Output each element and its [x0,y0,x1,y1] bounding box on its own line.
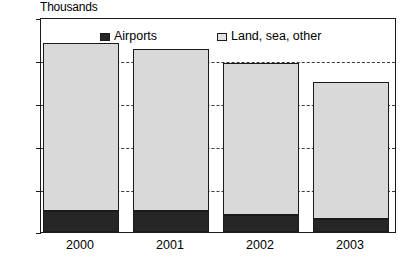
y-tick-200 [36,62,41,63]
x-axis-label-2000: 2000 [42,238,118,252]
legend-label-land-sea-other: Land, sea, other [231,30,321,43]
legend-label-airports: Airports [114,30,157,43]
bar-2001[interactable] [133,49,209,232]
plot-area [40,18,396,233]
bar-segment-airports-2002[interactable] [223,215,299,232]
bar-2000[interactable] [43,43,119,232]
dark-swatch-icon [100,33,110,41]
y-tick-250 [36,19,41,20]
y-tick-100 [36,148,41,149]
bar-segment-land-sea-other-2001[interactable] [133,49,209,211]
bar-segment-airports-2001[interactable] [133,211,209,233]
bar-segment-airports-2000[interactable] [43,211,119,232]
y-tick-0 [36,233,41,234]
x-axis-label-2001: 2001 [132,238,208,252]
bar-segment-land-sea-other-2002[interactable] [223,63,299,215]
y-tick-50 [36,191,41,192]
bar-2002[interactable] [223,63,299,232]
stacked-bar-chart: Thousands 250 200 150 100 50 0 [0,0,403,269]
bar-2003[interactable] [313,82,389,232]
x-axis-label-2003: 2003 [312,238,388,252]
light-swatch-icon [217,33,227,41]
legend-item-airports[interactable]: Airports [100,30,157,43]
x-axis-label-2002: 2002 [222,238,298,252]
axis-unit-label: Thousands [40,1,98,14]
bar-segment-airports-2003[interactable] [313,219,389,232]
legend-item-land-sea-other[interactable]: Land, sea, other [217,30,321,43]
bar-segment-land-sea-other-2003[interactable] [313,82,389,219]
y-tick-150 [36,105,41,106]
bar-segment-land-sea-other-2000[interactable] [43,43,119,212]
